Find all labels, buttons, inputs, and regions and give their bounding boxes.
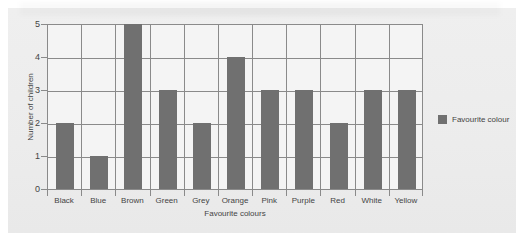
y-tick-label: 4 bbox=[30, 52, 40, 62]
y-tick-mark bbox=[41, 90, 47, 91]
x-tick-label: Purple bbox=[286, 196, 320, 205]
x-tick-label: Grey bbox=[184, 196, 218, 205]
x-tick-mark bbox=[286, 190, 287, 196]
x-tick-label: Pink bbox=[252, 196, 286, 205]
x-tick-label: Yellow bbox=[389, 196, 423, 205]
x-tick-mark bbox=[81, 190, 82, 196]
x-tick-mark bbox=[355, 190, 356, 196]
vertical-gridline bbox=[320, 25, 321, 189]
x-tick-mark bbox=[320, 190, 321, 196]
x-tick-label: Red bbox=[320, 196, 354, 205]
x-tick-label: Blue bbox=[81, 196, 115, 205]
legend-label: Favourite colour bbox=[452, 115, 509, 124]
x-tick-mark bbox=[422, 190, 423, 196]
bar-purple bbox=[295, 90, 313, 189]
x-tick-mark bbox=[150, 190, 151, 196]
bar-grey bbox=[193, 123, 211, 189]
x-tick-mark bbox=[252, 190, 253, 196]
bar-orange bbox=[227, 57, 245, 189]
x-tick-mark bbox=[184, 190, 185, 196]
bar-brown bbox=[124, 24, 142, 189]
vertical-gridline bbox=[184, 25, 185, 189]
x-tick-mark bbox=[389, 190, 390, 196]
vertical-gridline bbox=[81, 25, 82, 189]
vertical-gridline bbox=[150, 25, 151, 189]
bar-white bbox=[364, 90, 382, 189]
x-tick-label: Brown bbox=[115, 196, 149, 205]
x-tick-label: Black bbox=[47, 196, 81, 205]
x-tick-label: White bbox=[355, 196, 389, 205]
y-tick-mark bbox=[41, 24, 47, 25]
x-tick-mark bbox=[47, 190, 48, 196]
y-tick-mark bbox=[41, 57, 47, 58]
vertical-gridline bbox=[389, 25, 390, 189]
bar-black bbox=[56, 123, 74, 189]
show-through-text bbox=[20, 2, 500, 16]
bar-pink bbox=[261, 90, 279, 189]
x-tick-label: Orange bbox=[218, 196, 252, 205]
x-axis-title: Favourite colours bbox=[204, 209, 265, 218]
y-tick-mark bbox=[41, 123, 47, 124]
vertical-gridline bbox=[355, 25, 356, 189]
y-tick-mark bbox=[41, 156, 47, 157]
bar-red bbox=[330, 123, 348, 189]
x-tick-mark bbox=[115, 190, 116, 196]
vertical-gridline bbox=[218, 25, 219, 189]
bar-yellow bbox=[398, 90, 416, 189]
x-tick-label: Green bbox=[150, 196, 184, 205]
y-tick-label: 0 bbox=[30, 184, 40, 194]
y-axis-title: Number of children bbox=[26, 73, 35, 141]
bar-green bbox=[159, 90, 177, 189]
legend: Favourite colour bbox=[438, 115, 509, 124]
y-tick-label: 1 bbox=[30, 151, 40, 161]
x-tick-mark bbox=[218, 190, 219, 196]
vertical-gridline bbox=[115, 25, 116, 189]
vertical-gridline bbox=[252, 25, 253, 189]
y-tick-label: 5 bbox=[30, 19, 40, 29]
legend-swatch bbox=[438, 115, 447, 124]
plot-area bbox=[47, 24, 423, 190]
vertical-gridline bbox=[286, 25, 287, 189]
bar-blue bbox=[90, 156, 108, 189]
